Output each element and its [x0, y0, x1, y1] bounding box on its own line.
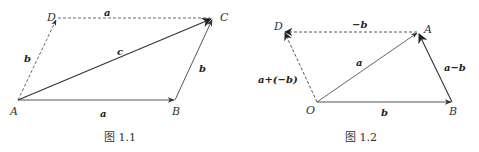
- figure-1-2: O B A D −b a a+(−b) a−b b 图 1.2: [258, 19, 466, 144]
- vector-c-diagonal: [18, 19, 211, 100]
- vector-label-a-top: a: [104, 7, 110, 18]
- vector-label-a: a: [356, 57, 362, 68]
- point-label-B2: B: [448, 105, 457, 118]
- vector-label-b-right: b: [199, 63, 206, 74]
- vector-label-c: c: [117, 46, 123, 57]
- point-label-A: A: [9, 105, 18, 118]
- point-label-A2: A: [423, 23, 432, 36]
- vector-label-minus-b: −b: [352, 19, 367, 30]
- point-label-D: D: [46, 11, 56, 24]
- vector-label-b-left: b: [24, 53, 31, 64]
- point-label-D2: D: [273, 20, 283, 33]
- caption-figure-1-2: 图 1.2: [345, 131, 377, 144]
- vector-label-a-plus-minus-b: a+(−b): [258, 74, 298, 85]
- point-label-O: O: [306, 104, 315, 117]
- figure-1-1: A B C D a b c b a 图 1.1: [9, 7, 229, 144]
- point-label-B: B: [171, 105, 180, 118]
- vector-a-diagonal: [317, 33, 417, 102]
- vector-label-a-minus-b: a−b: [444, 62, 466, 73]
- vector-a-plus-minus-b-dashed: [285, 33, 317, 102]
- point-label-C: C: [220, 11, 229, 24]
- caption-figure-1-1: 图 1.1: [104, 131, 136, 144]
- vector-diagrams: A B C D a b c b a 图 1.1 O B A D −b a a+(…: [0, 0, 479, 152]
- vector-label-b: b: [381, 107, 388, 118]
- vector-label-a-bottom: a: [100, 108, 106, 119]
